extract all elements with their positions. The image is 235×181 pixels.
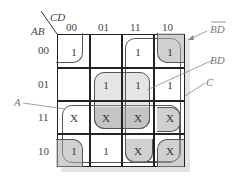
leader-a [23,103,65,109]
leader-bd [147,60,213,90]
label-bd: BD [210,54,225,66]
leader-c [185,83,205,96]
label-bdbar: BD [210,23,225,35]
corner-divider-line [41,11,57,34]
leader-lines [0,0,235,181]
label-c: C [206,76,213,88]
label-a: A [14,96,21,108]
arrow-bdbar-icon [188,35,194,40]
